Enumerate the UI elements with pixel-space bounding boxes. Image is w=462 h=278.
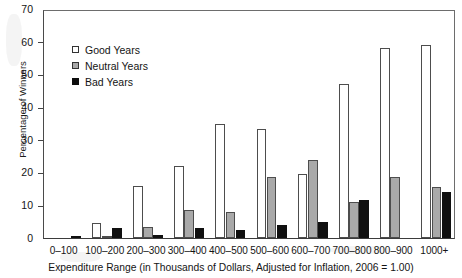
bar-bad-years xyxy=(236,230,246,238)
y-tick-label: 60 xyxy=(0,36,33,48)
x-tick-label: 200–300 xyxy=(122,245,169,256)
x-tick-label: 600–700 xyxy=(287,245,334,256)
bar-bad-years xyxy=(442,192,452,238)
y-tick-label: 20 xyxy=(0,166,33,178)
bar-bad-years xyxy=(112,228,122,238)
bar-group xyxy=(421,11,451,238)
bar-good-years xyxy=(339,84,349,238)
bar-bad-years xyxy=(153,235,163,238)
x-tick-label: 500–600 xyxy=(246,245,293,256)
x-tick-label: 800–900 xyxy=(370,245,417,256)
legend-item-neutral-years: Neutral Years xyxy=(72,58,148,73)
bar-group xyxy=(298,11,328,238)
bar-group xyxy=(215,11,245,238)
legend-label: Neutral Years xyxy=(85,60,148,72)
y-tick-label: 40 xyxy=(0,101,33,113)
bar-group xyxy=(257,11,287,238)
legend-swatch-bad-years xyxy=(72,78,79,85)
bar-neutral-years xyxy=(226,212,236,238)
bar-neutral-years xyxy=(390,177,400,238)
legend-label: Good Years xyxy=(85,44,140,56)
x-tick-label: 700–800 xyxy=(328,245,375,256)
legend-item-good-years: Good Years xyxy=(72,42,148,57)
bar-good-years xyxy=(174,166,184,238)
legend-label: Bad Years xyxy=(85,76,133,88)
x-tick-label: 0–100 xyxy=(40,245,87,256)
bar-bad-years xyxy=(195,228,205,238)
bar-group xyxy=(339,11,369,238)
chart-legend: Good Years Neutral Years Bad Years xyxy=(72,42,148,90)
y-tick-label: 50 xyxy=(0,68,33,80)
x-tick-label: 400–500 xyxy=(205,245,252,256)
legend-swatch-neutral-years xyxy=(72,62,79,69)
bar-good-years xyxy=(421,45,431,238)
bar-chart: Percentage of Winners 70 60 50 40 30 20 … xyxy=(0,0,462,278)
bar-group xyxy=(174,11,204,238)
legend-swatch-good-years xyxy=(72,46,79,53)
bar-good-years xyxy=(257,129,267,238)
bar-neutral-years xyxy=(432,187,442,238)
bar-good-years xyxy=(380,48,390,238)
bar-neutral-years xyxy=(267,177,277,238)
x-tick-label: 100–200 xyxy=(81,245,128,256)
bar-bad-years xyxy=(277,225,287,238)
bar-good-years xyxy=(298,174,308,238)
y-tick-label: 30 xyxy=(0,134,33,146)
x-axis-title: Expenditure Range (in Thousands of Dolla… xyxy=(0,262,462,273)
bar-group xyxy=(380,11,410,238)
bar-neutral-years xyxy=(143,227,153,238)
bar-neutral-years xyxy=(349,202,359,238)
y-tick-label: 10 xyxy=(0,199,33,211)
bar-neutral-years xyxy=(102,236,112,238)
x-tick-label: 300–400 xyxy=(164,245,211,256)
y-tick-label: 70 xyxy=(0,3,33,15)
legend-item-bad-years: Bad Years xyxy=(72,74,148,89)
x-tick-label: 1000+ xyxy=(411,245,458,256)
bar-good-years xyxy=(92,223,102,238)
bar-good-years xyxy=(215,124,225,239)
bar-neutral-years xyxy=(184,210,194,238)
bar-neutral-years xyxy=(308,160,318,239)
bar-bad-years xyxy=(359,200,369,238)
y-tick-label: 0 xyxy=(0,232,33,244)
bar-bad-years xyxy=(71,236,81,238)
bar-bad-years xyxy=(318,222,328,238)
bar-good-years xyxy=(133,186,143,238)
